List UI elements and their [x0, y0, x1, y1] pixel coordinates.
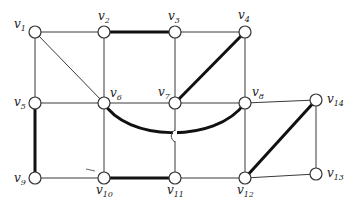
node-label-v8: v8	[252, 85, 264, 101]
node-v2-circle	[98, 26, 110, 38]
node-label-v5: v5	[14, 95, 26, 111]
marks-layer	[86, 130, 177, 171]
node-v7-circle	[169, 97, 181, 109]
edge-v1-v6	[35, 32, 104, 103]
node-label-v12: v12	[237, 183, 254, 199]
node-label-v10: v10	[96, 183, 113, 199]
node-label-v3: v3	[168, 9, 180, 25]
node-v4-circle	[239, 26, 251, 38]
node-label-v1: v1	[14, 17, 26, 33]
edge-v8-v14	[245, 100, 316, 103]
node-v14-circle	[310, 94, 322, 106]
graph-diagram: v1v2v3v4v5v6v7v8v9v10v11v12v13v14	[0, 0, 358, 204]
edge-v12-v14	[245, 100, 316, 178]
node-label-v14: v14	[327, 92, 344, 108]
node-v1-circle	[29, 26, 41, 38]
bridge-gap	[173, 131, 177, 141]
edge-v12-v13	[245, 174, 316, 178]
node-v5-circle	[29, 97, 41, 109]
node-v8-circle	[239, 97, 251, 109]
node-v13-circle	[310, 168, 322, 180]
graph-svg: v1v2v3v4v5v6v7v8v9v10v11v12v13v14	[0, 0, 358, 204]
node-v3-circle	[169, 26, 181, 38]
edge-v4-v7	[175, 32, 245, 103]
stray-mark	[86, 169, 95, 171]
node-label-v9: v9	[14, 171, 26, 187]
node-v9-circle	[29, 172, 41, 184]
node-label-v7: v7	[158, 85, 171, 101]
node-label-v6: v6	[110, 86, 122, 102]
node-label-v2: v2	[98, 9, 110, 25]
node-v6-circle	[98, 97, 110, 109]
node-label-v4: v4	[238, 8, 250, 24]
node-label-v13: v13	[327, 166, 344, 182]
node-label-v11: v11	[167, 183, 184, 199]
